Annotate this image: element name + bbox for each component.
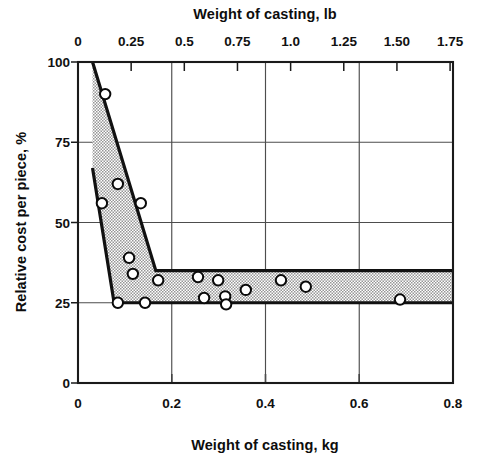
data-point xyxy=(213,275,223,285)
x-axis-tick-label: 0.6 xyxy=(350,396,369,411)
top-axis-tick-label: 0 xyxy=(74,34,82,49)
top-axis-tick-label: 1.75 xyxy=(437,34,464,49)
top-axis-tick-label: 0.75 xyxy=(224,34,251,49)
data-point xyxy=(124,253,134,263)
y-axis-tick-label: 25 xyxy=(55,296,71,311)
data-point xyxy=(301,282,311,292)
top-axis-tick-label: 0.25 xyxy=(118,34,145,49)
top-axis-tick-label: 1.50 xyxy=(384,34,410,49)
data-point xyxy=(221,299,231,309)
top-axis-tick-label: 0.5 xyxy=(175,34,194,49)
chart-background xyxy=(0,0,488,463)
top-axis-tick-label: 1.0 xyxy=(281,34,300,49)
data-point xyxy=(276,275,286,285)
data-point xyxy=(395,294,405,304)
data-point xyxy=(153,275,163,285)
data-point xyxy=(199,293,209,303)
x-axis-tick-label: 0.8 xyxy=(444,396,463,411)
y-axis-title: Relative cost per piece, % xyxy=(13,132,29,313)
data-point xyxy=(241,285,251,295)
y-axis-tick-label: 0 xyxy=(62,376,70,391)
data-point xyxy=(113,179,123,189)
y-axis-tick-label: 100 xyxy=(47,55,70,70)
data-point xyxy=(136,198,146,208)
x-axis-title: Weight of casting, kg xyxy=(191,437,339,453)
data-point xyxy=(140,298,150,308)
y-axis-tick-label: 75 xyxy=(55,135,71,150)
top-axis-tick-label: 1.25 xyxy=(331,34,358,49)
data-point xyxy=(193,272,203,282)
data-point xyxy=(97,198,107,208)
relative-cost-vs-weight-chart: Weight of casting, lb 00.250.50.751.01.2… xyxy=(0,0,488,463)
data-point xyxy=(113,298,123,308)
x-axis-tick-label: 0.4 xyxy=(256,396,275,411)
data-point xyxy=(128,269,138,279)
x-axis-tick-label: 0 xyxy=(74,396,82,411)
data-point xyxy=(100,89,110,99)
y-axis-tick-label: 50 xyxy=(55,216,70,231)
x-axis-tick-label: 0.2 xyxy=(162,396,181,411)
top-axis-title: Weight of casting, lb xyxy=(193,6,337,22)
